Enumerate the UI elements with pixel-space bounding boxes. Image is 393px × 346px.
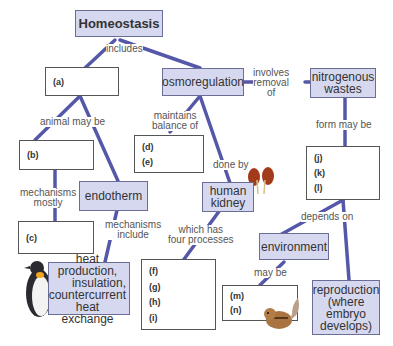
human-kidney-node: human kidney: [202, 182, 254, 212]
endotherm-node: endotherm: [79, 181, 148, 211]
link-mechanisms-include: mechanismsinclude: [105, 220, 161, 240]
blank-b[interactable]: (b): [19, 140, 94, 170]
homeostasis-node: Homeostasis: [75, 10, 163, 37]
homeostasis-title: Homeostasis: [79, 18, 160, 30]
blank-d-e[interactable]: (d) (e): [134, 135, 204, 173]
blank-a[interactable]: (a): [45, 67, 119, 96]
link-form-may-be: form may be: [316, 120, 372, 130]
nitrogenous-wastes-node: nitrogenous wastes: [310, 68, 376, 98]
chipmunk-icon: [262, 294, 306, 332]
link-animal-may-be: animal may be: [40, 117, 105, 127]
blank-c[interactable]: (c): [18, 221, 94, 254]
heat-mechanisms-node: heat production, insulation, countercurr…: [48, 262, 130, 315]
blank-f-g-h-i[interactable]: (f) (g) (h) (i): [141, 259, 216, 330]
blank-j-k-l[interactable]: (j) (k) (l): [306, 146, 380, 200]
link-involves-removal-of: involvesremovalof: [253, 68, 289, 98]
link-may-be: may be: [254, 268, 287, 278]
link-mechanisms-mostly: mechanismsmostly: [20, 188, 76, 208]
link-depends-on: depends on: [301, 212, 353, 222]
environment-node: environment: [259, 233, 329, 260]
link-done-by: done by: [213, 160, 249, 170]
link-includes: includes: [106, 44, 143, 54]
link-which-has-four-processes: which hasfour processes: [168, 225, 234, 245]
reproduction-node: reproduction (where embryo develops): [312, 280, 380, 335]
osmoregulation-node: osmoregulation: [162, 68, 244, 96]
link-maintains-balance-of: maintainsbalance of: [152, 111, 198, 131]
